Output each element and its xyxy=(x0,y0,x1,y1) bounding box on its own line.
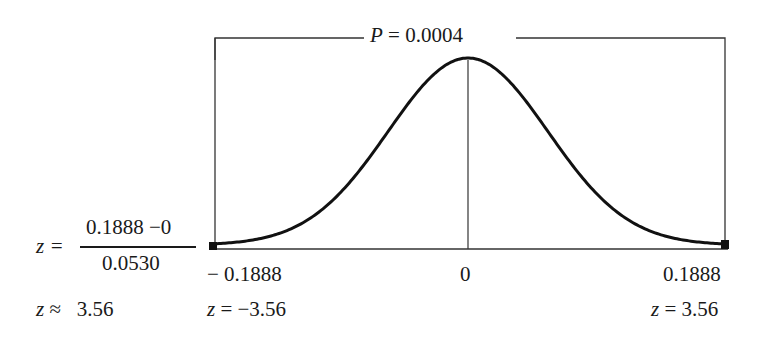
tick-label-left: − 0.1888 xyxy=(207,264,282,285)
tick-label-right: 0.1888 xyxy=(663,264,721,285)
left-tail-shade xyxy=(209,242,217,250)
formula-lhs: z = xyxy=(36,236,64,257)
right-tail-shade xyxy=(721,240,729,249)
fraction-bar xyxy=(80,246,196,248)
z-label-right: z = 3.56 xyxy=(651,299,718,320)
normal-curve-plot xyxy=(0,0,762,340)
p-value-label: P = 0.0004 xyxy=(366,25,467,46)
tick-label-center: 0 xyxy=(460,264,471,285)
p-bracket-left xyxy=(215,38,364,60)
formula-denominator: 0.0530 xyxy=(102,253,160,274)
p-bracket-right xyxy=(516,38,725,248)
z-label-left: z = −3.56 xyxy=(207,299,286,320)
normal-curve xyxy=(213,58,725,244)
formula-numerator: 0.1888 −0 xyxy=(86,217,171,238)
z-approx-result: z ≈ 3.56 xyxy=(36,299,113,320)
